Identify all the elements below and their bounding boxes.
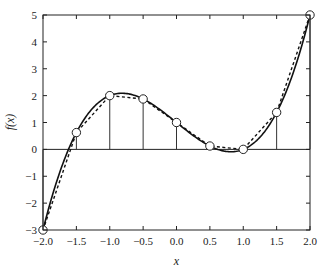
x-tick-label: 0.5 bbox=[203, 235, 217, 247]
x-tick-label: 1.5 bbox=[270, 235, 284, 247]
y-tick-label: 1 bbox=[32, 117, 38, 129]
y-tick-label: 3 bbox=[32, 63, 38, 75]
y-tick-label: −2 bbox=[25, 197, 37, 209]
y-tick-label: 2 bbox=[32, 90, 38, 102]
y-tick-label: 4 bbox=[32, 36, 38, 48]
y-tick-label: 0 bbox=[32, 143, 38, 155]
x-tick-label: 0.0 bbox=[170, 235, 184, 247]
y-axis-label: f(x) bbox=[3, 114, 17, 131]
x-axis-label: x bbox=[173, 254, 180, 268]
x-tick-label: −1.0 bbox=[100, 235, 120, 247]
sample-point-marker bbox=[239, 145, 247, 153]
x-tick-label: 2.0 bbox=[303, 235, 317, 247]
y-tick-label: −3 bbox=[25, 224, 37, 236]
x-tick-label: −2.0 bbox=[33, 235, 53, 247]
x-tick-label: −1.5 bbox=[66, 235, 86, 247]
x-tick-label: 1.0 bbox=[236, 235, 250, 247]
ticks: −2.0−1.5−1.0−0.50.00.51.01.52.0−3−2−1012… bbox=[25, 9, 317, 247]
sample-point-marker bbox=[72, 128, 80, 136]
sample-point-marker bbox=[272, 108, 280, 116]
sample-point-marker bbox=[172, 118, 180, 126]
sample-point-marker bbox=[106, 91, 114, 99]
x-tick-label: −0.5 bbox=[133, 235, 153, 247]
y-tick-label: 5 bbox=[32, 9, 38, 21]
sample-point-marker bbox=[206, 142, 214, 150]
plot-area bbox=[39, 11, 314, 234]
sample-point-marker bbox=[139, 95, 147, 103]
chart: −2.0−1.5−1.0−0.50.00.51.01.52.0−3−2−1012… bbox=[0, 0, 324, 274]
y-tick-label: −1 bbox=[25, 170, 37, 182]
